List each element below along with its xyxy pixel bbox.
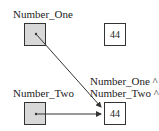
pointer-arrows — [0, 0, 159, 131]
arrow-number-one — [36, 34, 101, 107]
